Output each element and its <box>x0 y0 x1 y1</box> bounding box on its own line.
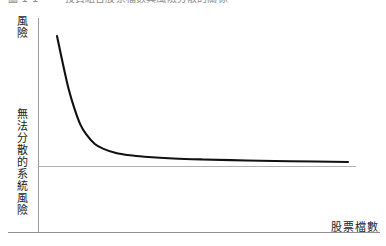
total-risk-curve <box>57 36 348 162</box>
y-axis-title: 風險 <box>15 15 27 39</box>
y-axis-line <box>38 18 39 232</box>
figure-caption: 圖 1-1投資組合股票檔數與風險分散的關係 <box>8 0 228 5</box>
figure-caption-number: 圖 1-1 <box>8 0 39 4</box>
figure-root: 圖 1-1投資組合股票檔數與風險分散的關係 風險 無法分散的系統風險 股票檔數 <box>0 0 386 246</box>
figure-caption-title: 投資組合股票檔數與風險分散的關係 <box>65 0 228 4</box>
risk-curve-svg <box>0 0 386 246</box>
figure-caption-strip: 圖 1-1投資組合股票檔數與風險分散的關係 <box>0 0 386 6</box>
systematic-risk-asymptote-line <box>38 166 356 167</box>
systematic-risk-label: 無法分散的系統風險 <box>15 108 27 216</box>
x-axis-line <box>8 232 380 233</box>
x-axis-title: 股票檔數 <box>331 218 379 234</box>
